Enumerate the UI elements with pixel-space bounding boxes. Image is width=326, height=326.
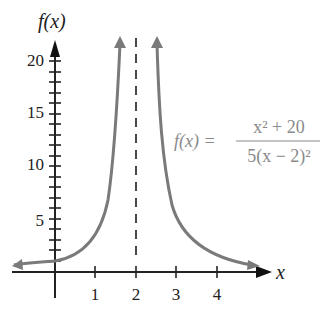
y-axis-label: f(x) (38, 10, 66, 33)
curve-up-arrow-left-icon (114, 36, 126, 48)
x-tick-label: 4 (213, 285, 222, 304)
x-tick-label: 3 (172, 285, 181, 304)
x-axis-label: x (275, 261, 285, 283)
equation-lhs: f(x) = (174, 131, 216, 152)
y-axis-arrow-icon (50, 40, 60, 57)
curve-up-arrow-right-icon (151, 36, 163, 48)
equation-denominator: 5(x − 2)² (247, 146, 311, 167)
x-tick-label: 2 (132, 285, 141, 304)
curve-left-arrow-icon (12, 259, 23, 270)
x-axis-arrow-icon (256, 266, 272, 278)
chart: 20 15 10 5 1 2 3 4 f(x) x f(x) = x² + 20… (0, 0, 326, 326)
y-tick-label: 15 (27, 103, 44, 122)
y-tick-label: 20 (27, 51, 44, 70)
y-tick-label: 10 (27, 155, 44, 174)
equation-numerator: x² + 20 (253, 117, 305, 137)
curve-right-branch (157, 44, 252, 265)
x-tick-label: 1 (91, 285, 100, 304)
y-tick-label: 5 (36, 211, 45, 230)
